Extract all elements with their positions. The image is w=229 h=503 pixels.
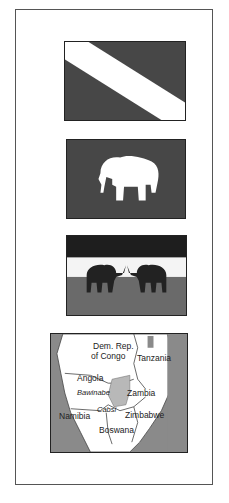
two-elephants-flag	[66, 235, 187, 316]
map-label-region: Bawinabe	[77, 389, 110, 397]
map-label-angola: Angola	[77, 374, 103, 383]
map-label-zimbabwe: Zimbabwe	[125, 411, 164, 420]
two-elephants-icon	[67, 236, 186, 315]
diagonal-stripe-flag	[64, 41, 186, 121]
map-label-botswana: Boswana	[99, 426, 134, 435]
map-label-namibia: Namibia	[59, 412, 90, 421]
map-label-strip: Cabsi	[97, 406, 116, 414]
diagonal-stripe-icon	[65, 42, 185, 120]
southern-africa-map: Dem. Rep. of Congo Tanzania Angola Bawin…	[50, 333, 188, 453]
elephant-icon	[67, 140, 185, 218]
map-label-drc-line2: of Congo	[91, 352, 126, 361]
map-label-zambia: Zambia	[127, 389, 155, 398]
elephant-flag	[66, 139, 186, 219]
map-label-drc-line1: Dem. Rep.	[93, 342, 134, 351]
map-label-tanzania: Tanzania	[137, 354, 171, 363]
